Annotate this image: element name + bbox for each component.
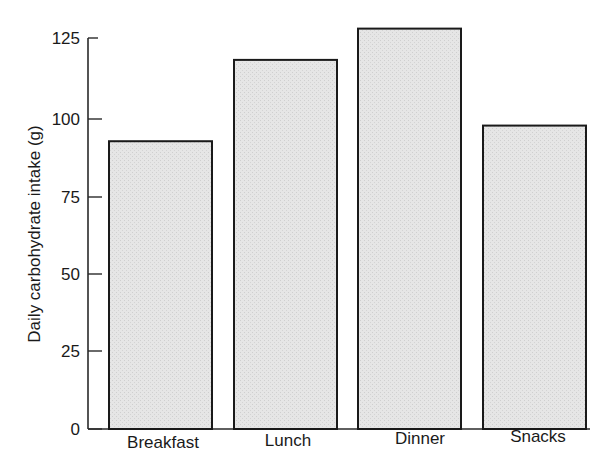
y-tick: 100 [52,110,102,129]
y-tick-label: 125 [52,29,80,48]
bar-chart: Daily carbohydrate intake (g) 0 25 50 75 [0,0,604,469]
chart-canvas: Daily carbohydrate intake (g) 0 25 50 75 [0,0,604,469]
bars [109,29,586,429]
bar-snacks [483,126,586,429]
y-tick-label: 0 [71,420,80,439]
x-tick-label: Breakfast [127,433,199,452]
y-tick-label: 75 [61,188,80,207]
x-tick-label: Lunch [265,431,311,450]
y-tick: 50 [61,265,102,284]
bar-breakfast [109,141,212,429]
bar-dinner [358,29,461,429]
x-tick-label: Snacks [510,427,566,446]
y-tick-label: 25 [61,342,80,361]
y-axis-title: Daily carbohydrate intake (g) [25,125,44,342]
x-axis-labels: Breakfast Lunch Dinner Snacks [127,427,566,452]
y-tick: 75 [61,188,102,207]
y-tick: 25 [61,342,102,361]
y-tick: 125 [52,29,98,48]
x-tick-label: Dinner [395,429,445,448]
y-tick-label: 50 [61,265,80,284]
bar-lunch [234,60,337,429]
y-tick-label: 100 [52,110,80,129]
y-axis-ticks: 0 25 50 75 100 125 [52,29,102,439]
